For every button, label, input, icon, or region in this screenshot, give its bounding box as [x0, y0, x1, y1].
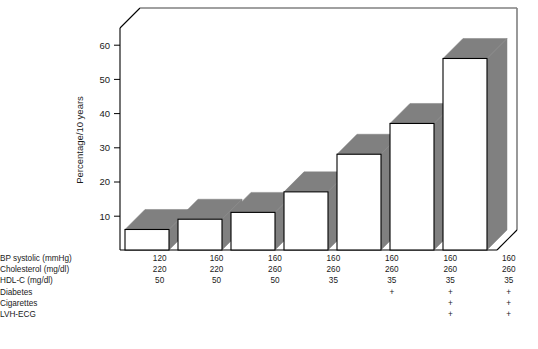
bar-front-face-5: [337, 154, 381, 250]
table-row-cholesterol: Cholesterol (mg/dl) 220 220 260 260 260 …: [0, 264, 538, 275]
cell-chol-1: 220: [132, 264, 187, 275]
cell-hdl-2: 50: [187, 275, 245, 286]
cell-cigarettes-3: [246, 298, 304, 309]
cell-lvh-5: [363, 309, 421, 320]
bar-front-face-4: [284, 192, 328, 250]
table-row-hdl: HDL-C (mg/dl) 50 50 50 35 35 35 35: [0, 275, 538, 286]
risk-factor-table: BP systolic (mmHg) 120 160 160 160 160 1…: [0, 253, 538, 320]
cell-diabetes-2: [187, 287, 245, 298]
cell-chol-4: 260: [304, 264, 362, 275]
bar-side-face-7: [487, 38, 507, 250]
cell-chol-2: 220: [187, 264, 245, 275]
cell-chol-5: 260: [363, 264, 421, 275]
cell-diabetes-6: +: [421, 287, 479, 298]
bar-front-face-1: [125, 229, 169, 250]
row-label-bp: BP systolic (mmHg): [0, 253, 132, 264]
row-label-lvh: LVH-ECG: [0, 309, 132, 320]
cell-bp-1: 120: [132, 253, 187, 264]
bar-front-face-3: [231, 212, 275, 250]
y-tick-label-40: 40: [99, 108, 110, 119]
table-row-diabetes: Diabetes + + +: [0, 287, 538, 298]
cell-bp-5: 160: [363, 253, 421, 264]
y-axis-ticks: [114, 45, 120, 216]
cell-diabetes-4: [304, 287, 362, 298]
y-tick-label-60: 60: [99, 40, 110, 51]
cell-diabetes-5: +: [363, 287, 421, 298]
y-tick-label-10: 10: [99, 211, 110, 222]
cell-cigarettes-1: [132, 298, 187, 309]
row-label-hdl: HDL-C (mg/dl): [0, 275, 132, 286]
cell-diabetes-7: +: [480, 287, 538, 298]
cell-lvh-3: [246, 309, 304, 320]
cell-hdl-7: 35: [480, 275, 538, 286]
table-row-bp: BP systolic (mmHg) 120 160 160 160 160 1…: [0, 253, 538, 264]
cell-bp-6: 160: [421, 253, 479, 264]
cell-chol-3: 260: [246, 264, 304, 275]
bar-front-face-7: [443, 58, 487, 250]
cell-cigarettes-2: [187, 298, 245, 309]
cell-lvh-6: +: [421, 309, 479, 320]
bars-layer: [125, 38, 507, 250]
cell-bp-2: 160: [187, 253, 245, 264]
cell-lvh-7: +: [480, 309, 538, 320]
bar-7: [443, 38, 507, 250]
cell-hdl-3: 50: [246, 275, 304, 286]
y-tick-label-20: 20: [99, 176, 110, 187]
bar-front-face-6: [390, 123, 434, 250]
cell-diabetes-3: [246, 287, 304, 298]
cell-bp-3: 160: [246, 253, 304, 264]
y-tick-label-30: 30: [99, 142, 110, 153]
cell-bp-4: 160: [304, 253, 362, 264]
bar-front-face-2: [178, 219, 222, 250]
y-axis-title: Percentage/10 years: [74, 96, 85, 184]
cell-lvh-1: [132, 309, 187, 320]
row-label-cigarettes: Cigarettes: [0, 298, 132, 309]
cell-cigarettes-6: +: [421, 298, 479, 309]
y-tick-label-50: 50: [99, 74, 110, 85]
cell-hdl-1: 50: [132, 275, 187, 286]
cell-cigarettes-4: [304, 298, 362, 309]
table-row-cigarettes: Cigarettes + +: [0, 298, 538, 309]
cell-lvh-2: [187, 309, 245, 320]
cell-cigarettes-7: +: [480, 298, 538, 309]
cell-bp-7: 160: [480, 253, 538, 264]
cell-chol-7: 260: [480, 264, 538, 275]
cell-hdl-5: 35: [363, 275, 421, 286]
row-label-cholesterol: Cholesterol (mg/dl): [0, 264, 132, 275]
cell-chol-6: 260: [421, 264, 479, 275]
table-row-lvh: LVH-ECG + +: [0, 309, 538, 320]
cell-hdl-4: 35: [304, 275, 362, 286]
cell-hdl-6: 35: [421, 275, 479, 286]
frame-depth-top-left: [120, 8, 140, 28]
row-label-diabetes: Diabetes: [0, 287, 132, 298]
cell-cigarettes-5: [363, 298, 421, 309]
cell-lvh-4: [304, 309, 362, 320]
cell-diabetes-1: [132, 287, 187, 298]
